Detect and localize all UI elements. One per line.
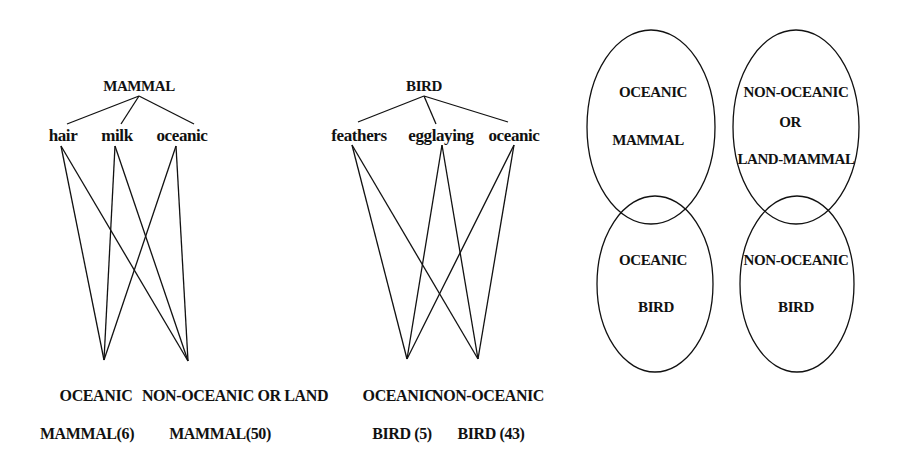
mammal-output-oceanic-line2: MAMMAL(6): [40, 425, 134, 443]
bird-feature-oceanic: oceanic: [488, 126, 539, 146]
venn-oceanic-bird-line1: OCEANIC: [619, 253, 687, 268]
bird-output-non-oceanic-line2: BIRD (43): [457, 425, 524, 443]
concept-diagram: MAMMAL hair milk oceanic OCEANIC MAMMAL(…: [0, 0, 901, 469]
mammal-output-non-oceanic-line2: MAMMAL(50): [169, 425, 271, 443]
venn-oceanic-bird-line2: BIRD: [638, 300, 674, 315]
mammal-output-oceanic-line1: OCEANIC: [60, 387, 133, 405]
mammal-tree-edges: [67, 96, 194, 124]
ellipse-oceanic-mammal: [587, 30, 715, 224]
venn-non-oceanic-bird-line1: NON-OCEANIC: [744, 253, 849, 268]
venn-oceanic-mammal-line2: MAMMAL: [612, 133, 684, 148]
mammal-output-edges: [61, 146, 188, 361]
mammal-feature-milk: milk: [101, 126, 132, 146]
bird-root-label: BIRD: [406, 78, 442, 95]
venn-non-oceanic-bird-line2: BIRD: [778, 300, 814, 315]
bird-tree-edges: [358, 96, 508, 124]
mammal-root-label: MAMMAL: [103, 78, 175, 95]
venn-non-oceanic-mammal-line3: LAND-MAMMAL: [737, 152, 854, 167]
ellipse-oceanic-bird: [597, 196, 713, 372]
bird-output-oceanic-line1: OCEANIC: [363, 387, 436, 405]
bird-feature-egglaying: egglaying: [408, 126, 473, 146]
mammal-feature-hair: hair: [49, 126, 78, 146]
ellipse-non-oceanic-bird: [740, 196, 854, 372]
venn-non-oceanic-mammal-line1: NON-OCEANIC: [744, 85, 849, 100]
bird-output-edges: [352, 145, 514, 359]
bird-feature-feathers: feathers: [331, 126, 386, 146]
bird-output-non-oceanic-line1: NON-OCEANIC: [432, 387, 544, 405]
venn-non-oceanic-mammal-line2: OR: [779, 115, 801, 130]
mammal-feature-oceanic: oceanic: [156, 126, 207, 146]
mammal-output-non-oceanic-line1: NON-OCEANIC OR LAND: [142, 387, 328, 405]
bird-output-oceanic-line2: BIRD (5): [372, 425, 431, 443]
venn-oceanic-mammal-line1: OCEANIC: [619, 85, 687, 100]
